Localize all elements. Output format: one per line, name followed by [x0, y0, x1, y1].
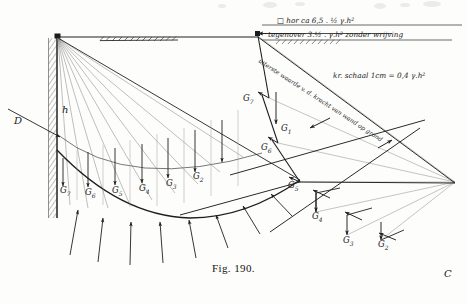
svg-text:G6: G6: [85, 187, 96, 199]
annotation-top-line2: tegenover 3.½ . γ.h² zonder wrijving: [268, 30, 403, 39]
annotation-scale: kr. schaal 1cm = 0,4 γ.h²: [333, 71, 425, 80]
retaining-wall: [49, 34, 61, 219]
svg-text:G3: G3: [343, 235, 354, 247]
svg-text:G5: G5: [112, 185, 123, 197]
svg-text:G3: G3: [166, 178, 177, 190]
svg-text:G2: G2: [378, 239, 389, 251]
label-wall-height: h: [62, 104, 68, 115]
annotation-top-line1: □ hor ca 6,5 . ½ γ.h²: [277, 16, 354, 25]
scan-ghost: [218, 1, 441, 9]
svg-text:G7: G7: [60, 185, 71, 197]
figure-canvas: C □ hor ca 6,5 . ½ γ.h² tegenover 3.½ . …: [0, 0, 467, 304]
svg-text:G2: G2: [193, 171, 204, 183]
figure-caption: Fig. 190.: [0, 262, 467, 274]
svg-text:G4: G4: [312, 211, 323, 223]
slip-circle-arc: [57, 150, 300, 218]
slip-reactions: [70, 194, 292, 265]
figure-page: C □ hor ca 6,5 . ½ γ.h² tegenover 3.½ . …: [0, 0, 467, 304]
polygon-rays: [258, 36, 455, 240]
svg-text:G6: G6: [261, 142, 272, 154]
svg-text:G1: G1: [281, 123, 292, 135]
slip-fan-radii: [58, 38, 243, 208]
slice-weight-labels: G7 G6 G5 G4 G3 G2: [60, 171, 204, 199]
polygon-closing-lines: [180, 37, 455, 232]
glabel-sub: 7: [67, 190, 71, 197]
label-depth-D: D: [13, 115, 22, 126]
ground-surface: [57, 37, 258, 42]
svg-text:G7: G7: [243, 93, 254, 105]
svg-text:G4: G4: [139, 183, 150, 195]
